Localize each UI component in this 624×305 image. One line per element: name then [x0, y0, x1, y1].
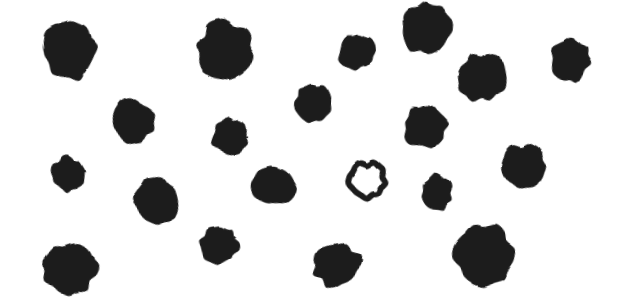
blob-field-svg — [0, 0, 624, 305]
blob-field-canvas — [0, 0, 624, 305]
